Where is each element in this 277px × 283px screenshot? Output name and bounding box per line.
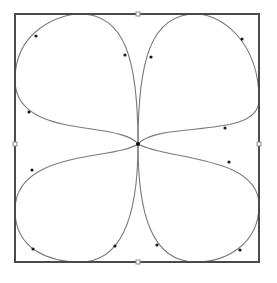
- curve-points: [27, 34, 243, 251]
- petal-top-left: [15, 14, 138, 144]
- point-marker: [240, 37, 243, 40]
- point-marker: [27, 110, 30, 113]
- point-marker: [123, 53, 126, 56]
- point-marker: [34, 34, 37, 37]
- square-frame: [15, 14, 259, 262]
- point-marker: [227, 160, 230, 163]
- point-marker: [31, 247, 34, 250]
- edge-ticks: [13, 12, 261, 264]
- petal-curves: [15, 14, 259, 262]
- point-marker: [238, 248, 241, 251]
- edge-tick-bottom: [136, 260, 140, 264]
- edge-tick-left: [13, 142, 17, 146]
- point-marker: [113, 244, 116, 247]
- diagram-canvas: [0, 0, 277, 283]
- point-marker: [149, 55, 152, 58]
- petal-bottom-left: [15, 144, 138, 262]
- center-point: [136, 142, 140, 146]
- edge-tick-top: [136, 12, 140, 16]
- petal-top-right: [138, 14, 259, 144]
- edge-tick-right: [257, 142, 261, 146]
- point-marker: [155, 243, 158, 246]
- point-marker: [223, 126, 226, 129]
- point-marker: [30, 168, 33, 171]
